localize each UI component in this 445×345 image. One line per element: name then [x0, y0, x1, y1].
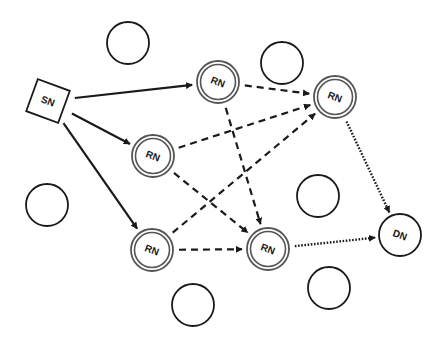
- idle-node: [308, 267, 350, 309]
- edge-rn2-to-rn3: [179, 105, 311, 148]
- idle-node: [26, 184, 68, 226]
- edge-sn-to-rn1: [75, 85, 192, 98]
- source-node-sn: SN: [26, 79, 70, 123]
- relay-node-rn3: RN: [314, 76, 356, 118]
- nodes: SNRNRNRNRNRNDN: [26, 22, 421, 326]
- edge-sn-to-rn4: [63, 123, 137, 229]
- edge-sn-to-rn2: [72, 114, 130, 144]
- idle-node: [107, 22, 149, 64]
- relay-node-rn1: RN: [197, 61, 239, 103]
- edge-rn4-to-rn5: [179, 249, 242, 250]
- relay-node-rn5: RN: [247, 228, 289, 270]
- idle-node: [297, 175, 339, 217]
- relay-node-rn2: RN: [132, 135, 174, 177]
- network-diagram: SNRNRNRNRNRNDN: [0, 0, 445, 345]
- edge-rn5-to-dn: [295, 238, 375, 247]
- idle-node: [172, 284, 214, 326]
- edge-rn1-to-rn5: [226, 108, 261, 224]
- idle-node: [261, 42, 303, 84]
- destination-node-dn: DN: [379, 214, 421, 256]
- edge-rn1-to-rn3: [245, 85, 309, 93]
- relay-node-rn4: RN: [131, 229, 173, 271]
- edge-rn4-to-rn3: [173, 114, 315, 233]
- edge-rn3-to-dn: [347, 121, 390, 212]
